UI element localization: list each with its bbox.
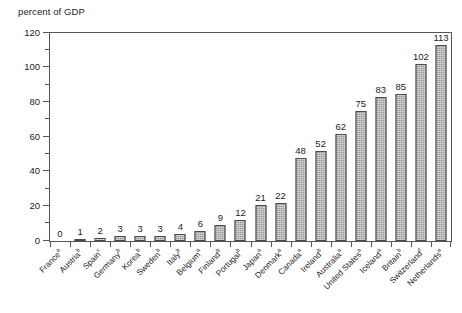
bar-group: 3 — [130, 33, 150, 241]
bar — [335, 134, 346, 241]
x-axis-tick — [50, 242, 51, 247]
tick-mark — [45, 49, 49, 50]
y-axis-tick-label: 40 — [29, 164, 40, 177]
bar-value-label: 102 — [413, 51, 429, 62]
bar-group: 48 — [291, 33, 311, 241]
x-axis-tick — [431, 242, 432, 247]
bar-value-label: 48 — [295, 145, 306, 156]
bar-group: 0 — [50, 33, 70, 241]
x-axis-tick — [411, 242, 412, 247]
chart-axis-title: percent of GDP — [18, 6, 85, 17]
tick-mark — [43, 136, 49, 137]
x-axis-tick — [170, 242, 171, 247]
x-axis-tick — [331, 242, 332, 247]
x-axis-tick — [90, 242, 91, 247]
bar-value-label: 22 — [275, 190, 286, 201]
bar-group: 3 — [110, 33, 130, 241]
x-axis-tick — [130, 242, 131, 247]
bar-group: 102 — [411, 33, 431, 241]
y-axis-tick-label: 100 — [24, 60, 40, 73]
y-axis-tick-label: 120 — [24, 26, 40, 39]
bar-value-label: 0 — [57, 228, 62, 239]
tick-mark — [45, 84, 49, 85]
tick-mark — [45, 153, 49, 154]
x-axis-tick — [251, 242, 252, 247]
bar-group: 3 — [150, 33, 170, 241]
x-axis-tick — [190, 242, 191, 247]
x-axis-tick — [210, 242, 211, 247]
bar-value-label: 83 — [376, 84, 387, 95]
bar — [115, 236, 126, 241]
bar-value-label: 6 — [198, 218, 203, 229]
bar — [95, 238, 106, 241]
tick-mark — [45, 222, 49, 223]
x-axis-tick — [110, 242, 111, 247]
bar-group: 21 — [251, 33, 271, 241]
bar — [275, 203, 286, 241]
tick-mark — [43, 205, 49, 206]
bar — [415, 64, 426, 241]
bar-group: 1 — [70, 33, 90, 241]
bar-group: 113 — [431, 33, 451, 241]
bar — [195, 231, 206, 241]
tick-mark — [43, 240, 49, 241]
x-axis-tick — [391, 242, 392, 247]
x-axis-tick — [271, 242, 272, 247]
bar-group: 6 — [190, 33, 210, 241]
bar — [295, 158, 306, 241]
bar — [215, 225, 226, 241]
x-axis-tick — [450, 242, 451, 247]
bar-value-label: 85 — [396, 81, 407, 92]
y-axis-tick-label: 20 — [29, 199, 40, 212]
y-axis: 020406080100120 — [0, 32, 49, 242]
bar — [155, 236, 166, 241]
bar-value-label: 1 — [77, 226, 82, 237]
bar — [315, 151, 326, 241]
x-axis-tick — [311, 242, 312, 247]
x-axis-tick — [70, 242, 71, 247]
bar-value-label: 12 — [235, 207, 246, 218]
bar — [235, 220, 246, 241]
bar — [355, 111, 366, 241]
x-axis-tick — [230, 242, 231, 247]
bar-group: 62 — [331, 33, 351, 241]
tick-mark — [43, 66, 49, 67]
bar-value-label: 21 — [255, 192, 266, 203]
x-axis-tick — [291, 242, 292, 247]
bars-container: 012333469122122485262758385102113 — [50, 33, 451, 241]
bar-value-label: 3 — [138, 223, 143, 234]
bar-group: 9 — [210, 33, 230, 241]
bar-value-label: 52 — [315, 138, 326, 149]
bar-value-label: 2 — [97, 225, 102, 236]
tick-mark — [45, 118, 49, 119]
bar-value-label: 75 — [355, 98, 366, 109]
tick-mark — [43, 32, 49, 33]
bar — [255, 205, 266, 241]
bar-group: 22 — [271, 33, 291, 241]
bar — [395, 94, 406, 241]
y-axis-tick-label: 0 — [35, 234, 40, 247]
tick-mark — [45, 188, 49, 189]
bar — [375, 97, 386, 241]
y-axis-tick-label: 80 — [29, 95, 40, 108]
bar-value-label: 9 — [218, 212, 223, 223]
y-axis-tick-label: 60 — [29, 130, 40, 143]
bar-value-label: 3 — [118, 223, 123, 234]
tick-mark — [43, 170, 49, 171]
bar — [175, 234, 186, 241]
bar-value-label: 62 — [335, 121, 346, 132]
bar-value-label: 4 — [178, 221, 183, 232]
bar — [435, 45, 446, 241]
x-axis-tick — [351, 242, 352, 247]
tick-mark — [43, 101, 49, 102]
x-axis-tick — [371, 242, 372, 247]
x-axis-tick — [150, 242, 151, 247]
bar-value-label: 113 — [433, 32, 448, 43]
bar-group: 12 — [230, 33, 250, 241]
bar-group: 4 — [170, 33, 190, 241]
bar — [75, 239, 86, 241]
bar-group: 2 — [90, 33, 110, 241]
bar — [135, 236, 146, 241]
bar-chart: percent of GDP 020406080100120 012333469… — [0, 0, 462, 313]
bar-group: 83 — [371, 33, 391, 241]
